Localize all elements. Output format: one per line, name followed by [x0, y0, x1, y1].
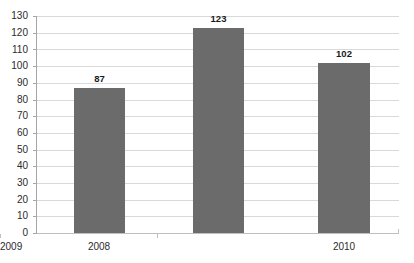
x-axis-tick — [0, 234, 1, 238]
bar-value-2010: 102 — [318, 49, 370, 59]
y-axis-tick-label: 40 — [0, 161, 28, 171]
y-axis-tick-label: 30 — [0, 178, 28, 188]
bar-value-2009: 123 — [193, 14, 244, 24]
y-axis-tick-label: 20 — [0, 195, 28, 205]
y-axis-tick-label: 110 — [0, 45, 28, 55]
y-axis-tick-label: 120 — [0, 28, 28, 38]
y-axis-tick-label: 0 — [0, 228, 28, 238]
y-axis-tick-label: 80 — [0, 95, 28, 105]
x-axis-label-2010: 2010 — [313, 241, 375, 252]
y-axis-tick-label: 10 — [0, 211, 28, 221]
y-axis-tick-label: 70 — [0, 111, 28, 121]
x-axis-label-2009: 2009 — [0, 241, 22, 252]
bar-2010 — [318, 63, 370, 233]
x-axis-label-2008: 2008 — [68, 241, 130, 252]
y-axis-tick-label: 50 — [0, 145, 28, 155]
y-axis-tick-label: 90 — [0, 78, 28, 88]
bar-2009 — [193, 28, 244, 233]
y-axis-tick-label: 60 — [0, 128, 28, 138]
y-axis-tick-label: 130 — [0, 11, 28, 21]
x-axis-end-cap — [398, 229, 399, 234]
bar-chart: 130 120 110 100 90 80 70 60 50 40 30 20 … — [0, 0, 414, 263]
bar-value-2008: 87 — [74, 74, 125, 84]
x-axis-tick — [157, 234, 158, 238]
bar-2008 — [74, 88, 125, 233]
y-axis-tick-label: 100 — [0, 61, 28, 71]
x-axis-baseline — [37, 233, 399, 234]
